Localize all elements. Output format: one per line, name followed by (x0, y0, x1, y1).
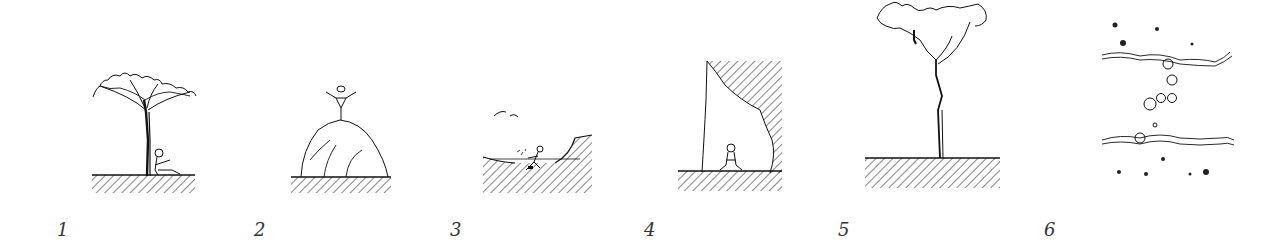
panel-2-number: 2 (254, 219, 265, 240)
panel-3-hollow: 3 (420, 0, 620, 240)
panel-4-number: 4 (644, 219, 655, 240)
panel-2-hilltop: 2 (220, 0, 420, 240)
panel-6-number: 6 (1044, 219, 1055, 240)
tree-with-sitting-person-illustration (0, 0, 220, 240)
panel-1-number: 1 (57, 219, 68, 240)
person-in-hollow-illustration (420, 0, 620, 240)
person-in-cave-illustration (620, 0, 830, 240)
panel-3-number: 3 (450, 219, 461, 240)
panel-5-tree-climb: 5 (830, 0, 1030, 240)
panel-4-cave-shelter: 4 (620, 0, 830, 240)
panel-1-tree-shade: 1 (0, 0, 220, 240)
person-climbing-tree-illustration (830, 0, 1030, 240)
person-on-hill-illustration (220, 0, 420, 240)
stepping-stone-path-illustration (1030, 0, 1274, 240)
panel-6-stepping-stones: 6 (1030, 0, 1274, 240)
panel-5-number: 5 (838, 219, 849, 240)
